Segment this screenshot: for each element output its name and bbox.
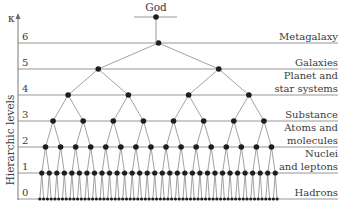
tree-edge [61,147,65,173]
tree-edge [228,173,230,199]
label-atoms-line2: molecules [287,135,338,146]
tree-edge [253,147,257,173]
tree-node-level-0 [200,197,203,200]
tree-edge [207,173,209,199]
tree-edge [102,173,104,199]
tree-node-level-0 [50,197,53,200]
tree-node-level-0 [257,197,260,200]
tree-node-level-1 [243,170,248,175]
level-number-4: 4 [22,83,28,94]
tree-node-level-0 [106,197,109,200]
tree-edge [106,147,110,173]
tree-edge [115,173,117,199]
tree-edge [192,147,196,173]
tree-edge [57,173,59,199]
tree-node-level-0 [234,197,237,200]
tree-node-level-4 [126,92,132,98]
tree-node-level-0 [151,197,154,200]
tree-edge [91,147,95,173]
tree-node-level-0 [99,197,102,200]
tree-node-level-0 [42,197,45,200]
tree-edge [151,147,155,173]
tree-edge [42,173,44,199]
tree-node-level-1 [69,170,74,175]
tree-edge [136,121,144,147]
god-label: God [145,1,167,13]
tree-edge [76,147,80,173]
tree-node-level-0 [227,197,230,200]
tree-node-level-0 [144,197,147,200]
tree-node-level-0 [53,197,56,200]
tree-node-level-0 [249,197,252,200]
tree-node-level-4 [186,92,192,98]
tree-edge [168,173,170,199]
tree-node-level-5 [216,66,222,72]
tree-node-level-0 [117,197,120,200]
tree-edge [189,69,219,95]
tree-node-level-3 [80,118,86,124]
tree-node-level-0 [219,197,222,200]
tree-edge [70,173,72,199]
tree-node-level-2 [163,144,169,150]
tree-node-level-0 [196,197,199,200]
tree-node-level-2 [178,144,184,150]
tree-edge [174,121,182,147]
tree-edge [198,173,200,199]
tree-edge [113,121,121,147]
tree-edge [196,121,204,147]
tree-edge [113,95,128,121]
tree-edge [140,173,142,199]
tree-edge [170,173,172,199]
tree-edge [132,147,136,173]
tree-edge [53,121,61,147]
tree-node-level-0 [57,197,60,200]
tree-node-level-3 [201,118,207,124]
tree-edge [234,121,242,147]
tree-edge [130,173,132,199]
tree-edge [42,147,46,173]
tree-node-level-1 [39,170,44,175]
tree-node-level-0 [264,197,267,200]
tree-edge [76,121,84,147]
tree-edge [238,173,240,199]
tree-edge [234,95,249,121]
tree-node-level-2 [148,144,154,150]
tree-edge [47,173,49,199]
tree-edge [143,121,151,147]
tree-node-level-0 [129,197,132,200]
tree-node-level-3 [141,118,147,124]
tree-node-level-0 [61,197,64,200]
tree-nodes [38,40,278,200]
label-planet-star-line2: star systems [274,83,338,94]
tree-edge [117,147,121,173]
tree-node-level-0 [95,197,98,200]
tree-edge [102,147,106,173]
tree-edge [55,173,57,199]
tree-node-level-0 [159,197,162,200]
tree-edge [110,173,112,199]
tree-edge [108,173,110,199]
tree-node-level-1 [130,170,135,175]
tree-node-level-1 [190,170,195,175]
tree-node-level-1 [62,170,67,175]
level-number-0: 0 [22,187,28,198]
tree-edge [123,173,125,199]
tree-edge [83,121,91,147]
tree-node-level-0 [238,197,241,200]
tree-node-level-0 [212,197,215,200]
tree-edge [183,173,185,199]
tree-node-level-1 [235,170,240,175]
tree-edge [181,147,185,173]
tree-edge [159,43,219,69]
tree-node-level-1 [205,170,210,175]
god-node [153,14,159,20]
tree-node-level-1 [122,170,127,175]
tree-node-level-1 [114,170,119,175]
tree-node-level-0 [174,197,177,200]
tree-node-level-0 [121,197,124,200]
tree-node-level-0 [136,197,139,200]
tree-edge [256,121,264,147]
tree-node-level-0 [163,197,166,200]
tree-node-level-0 [87,197,90,200]
tree-edge [72,173,74,199]
